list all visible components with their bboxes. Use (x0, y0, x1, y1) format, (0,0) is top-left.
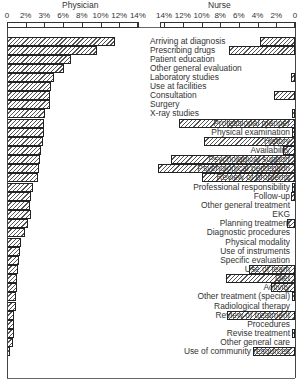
physician-bar (7, 320, 14, 329)
physician-bar (7, 55, 71, 64)
nurse-tick-label: 6% (233, 11, 245, 20)
physician-bar (7, 201, 30, 210)
physician-bar (7, 91, 50, 100)
physician-title: Physician (62, 0, 98, 10)
physician-bar (7, 292, 16, 301)
physician-bar (7, 192, 31, 201)
physician-tick-label: 3% (39, 11, 51, 20)
physician-bar (7, 283, 17, 292)
physician-bar (7, 247, 20, 256)
physician-bar (7, 228, 25, 237)
physician-bar (7, 73, 54, 82)
physician-bar (7, 100, 50, 109)
physician-tick-label: 10% (92, 11, 108, 20)
physician-tick-label: 6% (57, 11, 69, 20)
tick-mark (239, 22, 240, 28)
physician-baseline (7, 28, 8, 378)
physician-bar (7, 311, 14, 320)
physician-bar (7, 210, 31, 219)
physician-bar (7, 146, 41, 155)
tick-mark (202, 22, 203, 28)
nurse-bar (260, 37, 295, 46)
tick-mark (26, 22, 27, 28)
nurse-tick-label: 0 (293, 11, 297, 20)
tick-mark (164, 22, 165, 28)
physician-bar (7, 46, 97, 55)
physician-bar (7, 164, 39, 173)
physician-bar (7, 219, 28, 228)
physician-tick-label: 2% (20, 11, 32, 20)
nurse-tick-label: 2% (271, 11, 283, 20)
nurse-tick-label: 8% (214, 11, 226, 20)
nurse-tick-label: 10% (193, 11, 209, 20)
physician-tick-label: 14% (130, 11, 146, 20)
category-label: Diagnostic procedures (207, 228, 290, 237)
physician-bar (7, 238, 21, 247)
tick-mark (258, 22, 259, 28)
physician-bar (7, 265, 18, 274)
physician-tick-label: 12% (111, 11, 127, 20)
category-label: X-ray studies (150, 109, 199, 118)
physician-tick-label: 8% (76, 11, 88, 20)
physician-bar (7, 82, 51, 91)
category-label: Other treatment (special) (197, 292, 290, 301)
physician-bar (7, 64, 64, 73)
physician-bar (7, 37, 115, 46)
tick-mark (276, 22, 277, 28)
tick-mark (82, 22, 83, 28)
physician-tick-label: 0 (5, 11, 9, 20)
nurse-tick-label: 12% (175, 11, 191, 20)
physician-bar (7, 119, 44, 128)
physician-bar (7, 274, 17, 283)
nurse-tick-label: 4% (252, 11, 264, 20)
tick-mark (101, 22, 102, 28)
nurse-bar (274, 91, 295, 100)
physician-bar (7, 109, 45, 118)
tick-mark (119, 22, 120, 28)
bottom-line (7, 378, 295, 379)
physician-bar (7, 155, 40, 164)
nurse-tick-label: 14% (156, 11, 172, 20)
axis-connector (138, 27, 160, 28)
nurse-bar (229, 46, 295, 55)
tick-mark (63, 22, 64, 28)
physician-bar (7, 256, 19, 265)
tick-mark (44, 22, 45, 28)
tick-mark (138, 22, 139, 28)
physician-bar (7, 128, 44, 137)
physician-bar (7, 137, 43, 146)
physician-bar (7, 173, 38, 182)
category-label: Review of problems (216, 173, 290, 182)
nurse-title: Nurse (208, 0, 231, 10)
tick-mark (220, 22, 221, 28)
nurse-baseline (295, 28, 296, 378)
tick-mark (183, 22, 184, 28)
physician-bar (7, 183, 33, 192)
category-label: Use of community resources (184, 347, 290, 356)
nurse-axis (160, 22, 295, 28)
physician-bar (7, 302, 16, 311)
